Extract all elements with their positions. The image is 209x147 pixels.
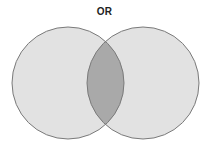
venn-diagram	[0, 0, 209, 147]
